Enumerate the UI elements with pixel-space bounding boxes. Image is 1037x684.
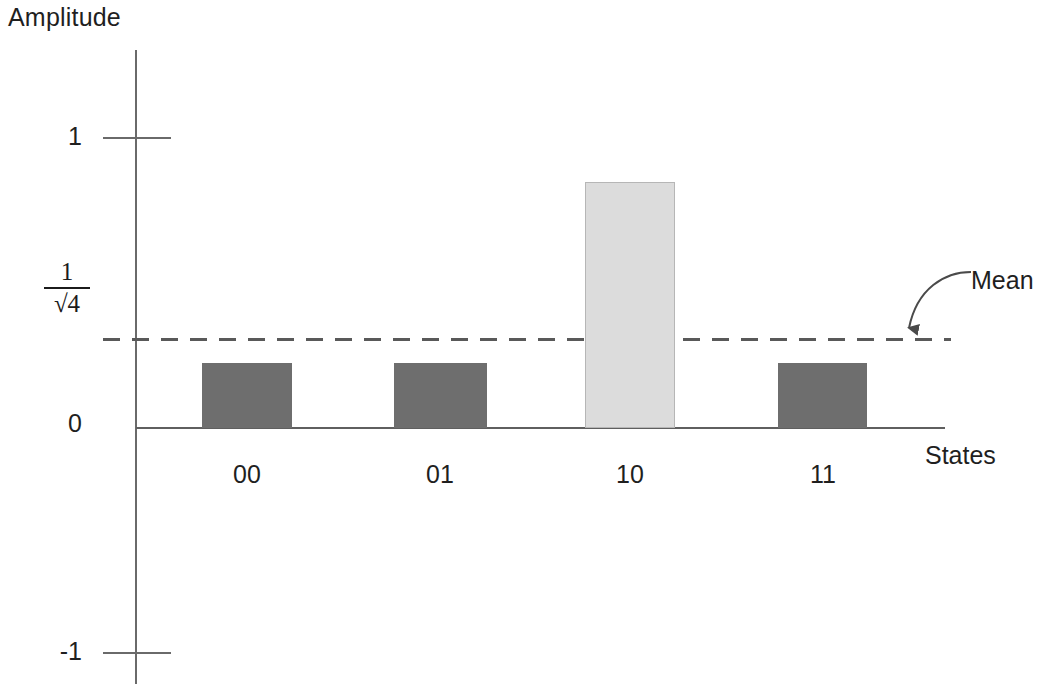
- bar-state-10: [585, 182, 675, 428]
- fraction-denominator: √4: [34, 291, 100, 317]
- y-tick-label-zero: 0: [20, 409, 82, 438]
- y-tick-label-negative-one: -1: [20, 637, 82, 666]
- amplitude-bar-chart: Amplitude 1 0 -1 1 √4 00 01 10 11 States…: [0, 0, 1037, 684]
- mean-reference-line: [103, 338, 951, 341]
- y-axis-line: [135, 50, 137, 684]
- x-tick-label-00: 00: [197, 460, 297, 489]
- x-tick-label-01: 01: [390, 460, 490, 489]
- bar-state-11: [778, 363, 867, 428]
- x-tick-label-11: 11: [773, 460, 873, 489]
- y-tick-label-mean-fraction: 1 √4: [34, 259, 100, 318]
- bar-state-00: [202, 363, 292, 428]
- y-axis-title: Amplitude: [8, 3, 121, 32]
- bar-state-01: [394, 363, 487, 428]
- mean-annotation-label: Mean: [971, 266, 1034, 295]
- x-axis-title: States: [925, 441, 996, 470]
- fraction-bar: [44, 287, 90, 289]
- y-tick-mark-positive-one: [103, 137, 171, 139]
- mean-annotation-arrow-icon: [885, 262, 975, 348]
- y-tick-mark-negative-one: [103, 652, 171, 654]
- x-tick-label-10: 10: [580, 460, 680, 489]
- fraction-numerator: 1: [34, 259, 100, 286]
- y-tick-label-positive-one: 1: [20, 122, 82, 151]
